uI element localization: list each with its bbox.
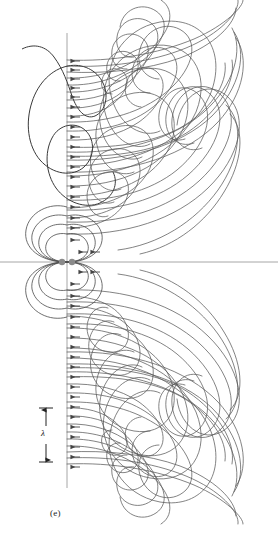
bottom-half-mirror	[26, 262, 244, 524]
field-line-diagram	[0, 0, 278, 546]
wavelength-symbol-label: λ	[41, 428, 45, 438]
radiation-lobes-top	[67, 0, 243, 254]
source-dot-right	[69, 259, 75, 265]
axis-group	[0, 33, 278, 488]
source-dot-left	[59, 259, 65, 265]
radiation-lobes-bottom	[67, 270, 243, 524]
envelope-wave-curve	[22, 46, 115, 205]
panel-caption: (e)	[50, 508, 61, 518]
dipole-radiation-figure: λ (e)	[0, 0, 278, 546]
